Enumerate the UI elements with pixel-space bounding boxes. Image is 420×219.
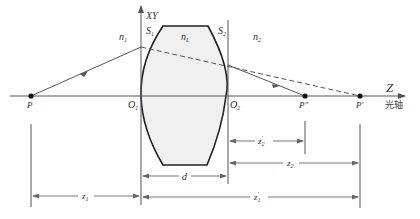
point-p-prime <box>357 93 362 98</box>
point-p <box>28 93 33 98</box>
label-o2: O2 <box>230 99 240 111</box>
thick-lens-diagram: XY S1 n1 nL S2 n2 Z 光轴 P O1 O2 P″ P′ z2′… <box>0 0 420 219</box>
label-p-prime: P′ <box>355 100 364 110</box>
point-p-double-prime <box>302 93 307 98</box>
label-p: P <box>26 100 33 110</box>
label-xy: XY <box>145 10 159 21</box>
label-n1: n1 <box>119 31 127 43</box>
label-z: Z <box>386 80 394 95</box>
incident-ray <box>31 47 141 96</box>
label-s2: S2 <box>218 25 226 37</box>
refracted-ray <box>228 65 305 96</box>
label-p-double-prime: P″ <box>298 100 308 110</box>
label-n2: n2 <box>253 31 261 43</box>
label-optical-axis: 光轴 <box>385 99 403 110</box>
label-o1: O1 <box>128 99 138 111</box>
label-s1: S1 <box>146 25 154 37</box>
